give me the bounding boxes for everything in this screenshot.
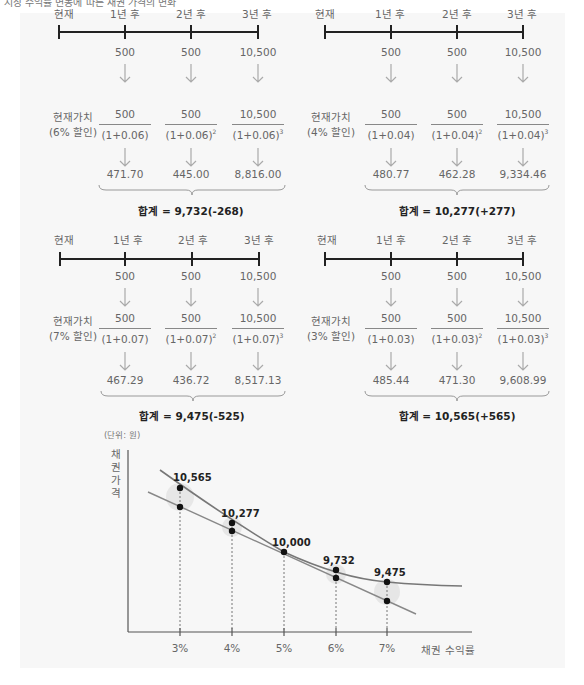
timeline-label-now: 현재 xyxy=(317,232,337,247)
pv-label-group: 현재가치 (7% 할인) xyxy=(38,314,108,344)
discount-label: (7% 할인) xyxy=(38,329,108,344)
timeline-label-year1: 1년 후 xyxy=(375,6,405,21)
present-value: 471.70 xyxy=(107,168,144,180)
timeline-tick xyxy=(324,252,326,266)
ylabel-char: 격 xyxy=(110,487,122,500)
ylabel-char: 권 xyxy=(110,461,122,474)
fraction-bar xyxy=(497,328,549,329)
sum-total: 합계 = 10,277(+277) xyxy=(399,203,516,218)
discount-label: (3% 할인) xyxy=(300,329,362,344)
present-value: 9,334.46 xyxy=(500,168,547,180)
arrow-down-icon xyxy=(119,148,131,168)
present-value: 8,517.13 xyxy=(235,374,282,386)
cash-flow: 500 xyxy=(115,46,135,58)
denominator-base: (1+0.06) xyxy=(166,129,213,141)
chart-ylabel: 채 권 가 격 xyxy=(110,448,122,500)
exponent: 3 xyxy=(280,128,284,135)
pv-label: 현재가치 xyxy=(300,110,362,125)
point-label: 9,475 xyxy=(374,567,406,578)
fraction-bar xyxy=(165,124,217,125)
cash-flow: 500 xyxy=(181,270,201,282)
denominator-base: (1+0.03) xyxy=(498,333,545,345)
exponent: 2 xyxy=(479,128,483,135)
timeline-tick xyxy=(124,25,126,39)
chart-unit: (단위: 원) xyxy=(104,428,140,440)
sum-total: 합계 = 9,475(-525) xyxy=(139,408,244,423)
curly-brace-icon xyxy=(364,390,550,402)
numerator: 500 xyxy=(181,108,201,120)
denominator: (1+0.06) xyxy=(101,128,148,141)
discount-label: (6% 할인) xyxy=(38,125,108,140)
arrow-down-icon xyxy=(185,352,197,372)
timeline-axis xyxy=(58,31,259,33)
numerator: 500 xyxy=(181,312,201,324)
scenario-block-7pct: 현재 1년 후 2년 후 3년 후 500 500 10,500 현재가치 (7… xyxy=(0,228,272,438)
discount-label: (4% 할인) xyxy=(300,125,362,140)
timeline-label-year2: 2년 후 xyxy=(442,232,472,247)
curly-brace-icon xyxy=(364,184,550,196)
timeline-label-now: 현재 xyxy=(54,6,74,21)
arrow-down-icon xyxy=(385,64,397,84)
point-label: 10,565 xyxy=(173,472,212,483)
x-tick-label: 3% xyxy=(172,642,189,654)
exponent: 3 xyxy=(280,332,284,339)
curly-brace-icon xyxy=(100,390,286,402)
present-value: 485.44 xyxy=(373,374,410,386)
denominator: (1+0.04)2 xyxy=(432,128,483,141)
denominator: (1+0.06)2 xyxy=(166,128,217,141)
point-label: 9,732 xyxy=(323,555,355,566)
numerator: 500 xyxy=(447,108,467,120)
timeline-label-year2: 2년 후 xyxy=(442,6,472,21)
pv-label-group: 현재가치 (4% 할인) xyxy=(300,110,362,140)
numerator: 500 xyxy=(115,312,135,324)
scenario-block-6pct: 현재 1년 후 2년 후 3년 후 500 500 10,500 현재가치 (6… xyxy=(0,0,272,210)
present-value: 467.29 xyxy=(107,374,144,386)
arrow-down-icon xyxy=(451,64,463,84)
fraction-bar xyxy=(431,124,483,125)
numerator: 10,500 xyxy=(240,312,277,324)
exponent: 2 xyxy=(213,128,217,135)
timeline-tick xyxy=(124,252,126,266)
fraction-bar xyxy=(365,328,417,329)
present-value: 471.30 xyxy=(439,374,476,386)
present-value: 9,608.99 xyxy=(500,374,547,386)
cash-flow: 10,500 xyxy=(505,46,542,58)
present-value: 8,816.00 xyxy=(235,168,282,180)
fraction-bar xyxy=(365,124,417,125)
denominator-base: (1+0.07) xyxy=(101,333,148,345)
denominator: (1+0.07)2 xyxy=(166,332,217,345)
arrow-down-icon xyxy=(517,288,529,308)
arrow-down-icon xyxy=(451,288,463,308)
timeline-tick xyxy=(258,252,260,266)
numerator: 10,500 xyxy=(505,108,542,120)
pv-label: 현재가치 xyxy=(300,314,362,329)
x-tick-label: 4% xyxy=(224,642,241,654)
denominator: (1+0.03)2 xyxy=(432,332,483,345)
arrow-down-icon xyxy=(185,64,197,84)
timeline-label-year3: 3년 후 xyxy=(242,6,272,21)
cash-flow: 500 xyxy=(447,46,467,58)
pv-label-group: 현재가치 (6% 할인) xyxy=(38,110,108,140)
exponent: 3 xyxy=(545,128,549,135)
timeline-label-year3: 3년 후 xyxy=(507,232,537,247)
exponent: 3 xyxy=(545,332,549,339)
fraction-bar xyxy=(431,328,483,329)
arrow-down-icon xyxy=(451,148,463,168)
scenario-block-3pct: 현재 1년 후 2년 후 3년 후 500 500 10,500 현재가치 (3… xyxy=(292,228,564,438)
timeline-label-year3: 3년 후 xyxy=(244,232,274,247)
timeline-label-year1: 1년 후 xyxy=(110,6,140,21)
fraction-bar xyxy=(232,124,284,125)
timeline-tick xyxy=(324,25,326,39)
cash-flow: 500 xyxy=(381,46,401,58)
cash-flow: 500 xyxy=(181,46,201,58)
point-label: 10,277 xyxy=(221,508,260,519)
timeline-label-year2: 2년 후 xyxy=(178,232,208,247)
present-value: 480.77 xyxy=(373,168,410,180)
fraction-bar xyxy=(99,328,151,329)
numerator: 500 xyxy=(381,312,401,324)
arrow-down-icon xyxy=(451,352,463,372)
denominator-base: (1+0.03) xyxy=(367,333,414,345)
numerator: 10,500 xyxy=(240,108,277,120)
timeline-tick xyxy=(522,252,524,266)
timeline-axis xyxy=(59,258,260,260)
